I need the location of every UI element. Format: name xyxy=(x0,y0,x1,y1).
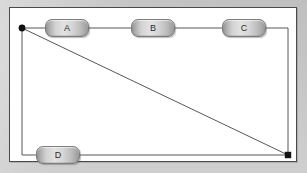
endpoint-origin-dot[interactable] xyxy=(19,25,26,32)
endpoint-terminal-dot[interactable] xyxy=(285,152,291,158)
node-d[interactable]: D xyxy=(36,146,80,164)
edge-origin-to-d xyxy=(22,28,36,155)
node-a-label: A xyxy=(64,24,70,33)
node-b[interactable]: B xyxy=(131,19,175,37)
diagram-canvas[interactable]: A B C D xyxy=(9,7,297,162)
node-c[interactable]: C xyxy=(222,19,266,37)
node-a[interactable]: A xyxy=(45,19,89,37)
edge-origin-to-terminal xyxy=(22,28,288,155)
page-background: A B C D xyxy=(0,0,307,173)
node-c-label: C xyxy=(241,24,248,33)
node-b-label: B xyxy=(150,24,156,33)
edge-c-to-terminal xyxy=(266,28,288,155)
node-d-label: D xyxy=(55,151,62,160)
